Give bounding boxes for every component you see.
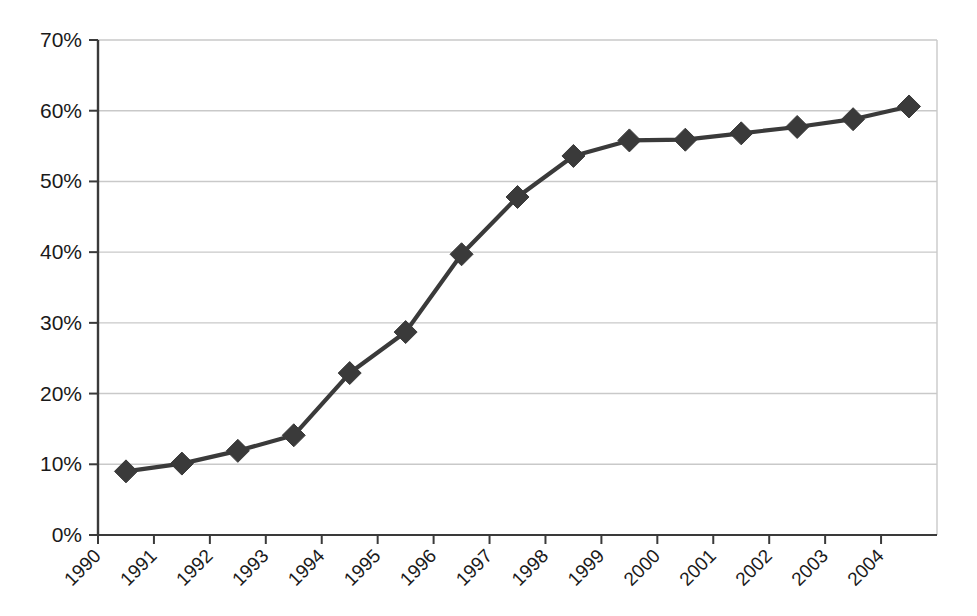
data-point-marker bbox=[674, 128, 697, 151]
x-axis-tick-label: 1997 bbox=[452, 545, 497, 590]
y-axis-tick-label: 10% bbox=[40, 452, 82, 475]
x-axis-tick-label: 2001 bbox=[675, 545, 720, 590]
y-axis-tick-label: 40% bbox=[40, 240, 82, 263]
data-point-marker bbox=[618, 129, 641, 152]
data-line-series bbox=[126, 106, 909, 471]
series-polyline bbox=[126, 106, 909, 471]
x-axis-tick-label: 2003 bbox=[787, 545, 832, 590]
y-axis-ticks bbox=[89, 40, 98, 535]
x-axis-tick-label: 1996 bbox=[396, 545, 441, 590]
data-point-marker bbox=[226, 439, 249, 462]
chart-canvas: 70%60%50%40%30%20%10%0% 1990199119921993… bbox=[0, 0, 977, 616]
data-point-markers bbox=[114, 95, 920, 483]
x-axis-tick-label: 1991 bbox=[116, 545, 161, 590]
x-axis-tick-label: 1990 bbox=[60, 545, 105, 590]
y-axis-tick-label: 50% bbox=[40, 169, 82, 192]
line-chart: 70%60%50%40%30%20%10%0% 1990199119921993… bbox=[0, 0, 977, 616]
y-axis-tick-label: 0% bbox=[52, 523, 82, 546]
data-point-marker bbox=[730, 122, 753, 145]
y-axis-tick-label: 20% bbox=[40, 382, 82, 405]
x-axis-tick-label: 1999 bbox=[563, 545, 608, 590]
data-point-marker bbox=[898, 95, 921, 118]
data-point-marker bbox=[114, 460, 137, 483]
y-axis-tick-labels: 70%60%50%40%30%20%10%0% bbox=[40, 28, 82, 546]
x-axis-tick-label: 2002 bbox=[731, 545, 776, 590]
data-point-marker bbox=[786, 115, 809, 138]
data-point-marker bbox=[170, 452, 193, 475]
x-axis-tick-label: 1995 bbox=[340, 545, 385, 590]
y-axis-tick-label: 60% bbox=[40, 99, 82, 122]
x-axis-tick-label: 1994 bbox=[284, 545, 329, 590]
y-axis-tick-label: 70% bbox=[40, 28, 82, 51]
x-axis-ticks bbox=[98, 535, 881, 544]
x-axis-tick-label: 2004 bbox=[843, 545, 888, 590]
y-axis-tick-label: 30% bbox=[40, 311, 82, 334]
x-axis-tick-label: 2000 bbox=[619, 545, 664, 590]
x-axis-tick-label: 1992 bbox=[172, 545, 217, 590]
x-axis-tick-labels: 1990199119921993199419951996199719981999… bbox=[60, 545, 888, 590]
x-axis-tick-label: 1993 bbox=[228, 545, 273, 590]
gridlines bbox=[98, 40, 937, 464]
x-axis-tick-label: 1998 bbox=[508, 545, 553, 590]
